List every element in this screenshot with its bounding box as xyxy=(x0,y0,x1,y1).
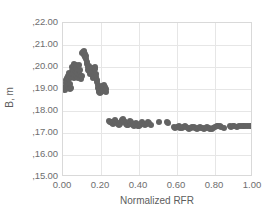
gridline-horizontal xyxy=(63,89,251,90)
gridline-vertical xyxy=(215,23,216,175)
data-point xyxy=(79,73,85,79)
y-tick-label: ,16.00 xyxy=(0,148,58,159)
plot-area xyxy=(62,22,252,176)
gridline-vertical xyxy=(101,23,102,175)
data-point xyxy=(249,123,252,129)
scatter-chart: ,15.00,16.00,17.00,18.00,19.00,20.00,21.… xyxy=(0,0,272,219)
gridline-vertical xyxy=(177,23,178,175)
gridline-horizontal xyxy=(63,111,251,112)
y-tick-label: ,22.00 xyxy=(0,16,58,27)
gridline-horizontal xyxy=(63,155,251,156)
data-point xyxy=(221,125,227,131)
data-point xyxy=(156,119,162,125)
gridline-horizontal xyxy=(63,133,251,134)
data-point xyxy=(148,122,154,128)
gridline-horizontal xyxy=(63,45,251,46)
y-tick-label: ,17.00 xyxy=(0,126,58,137)
y-tick-label: ,20.00 xyxy=(0,60,58,71)
data-point xyxy=(68,85,74,91)
data-point xyxy=(103,89,109,95)
y-tick-label: ,21.00 xyxy=(0,38,58,49)
y-axis-title: B, m xyxy=(4,75,15,121)
x-axis-title: Normalized RFR xyxy=(62,195,252,206)
x-tick-label: 1.00 xyxy=(230,179,272,190)
gridline-vertical xyxy=(139,23,140,175)
